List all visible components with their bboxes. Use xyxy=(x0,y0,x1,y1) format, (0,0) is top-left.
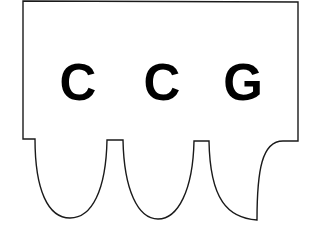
base-letter-1: C xyxy=(60,54,97,111)
codon-diagram: C C G xyxy=(0,0,312,236)
base-letter-2: C xyxy=(144,54,181,111)
base-letter-3: G xyxy=(223,54,263,111)
